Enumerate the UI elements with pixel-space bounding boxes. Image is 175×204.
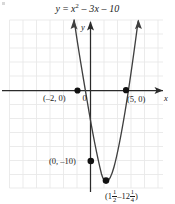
label-origin: 0 (83, 93, 87, 103)
point-vertex (103, 177, 110, 184)
graph-figure: y = x2 – 3x – 10 (0, 0, 175, 204)
coordinate-plane (0, 0, 175, 204)
label-y-axis-name: y (81, 22, 85, 32)
point-x-intercept-right (123, 87, 129, 93)
vertex-open: (1 (105, 191, 112, 201)
label-x-axis-name: x (164, 93, 168, 103)
label-x-intercept-left: (–2, 0) (43, 93, 66, 103)
grid-lines (10, 20, 164, 188)
label-x-intercept-right: (5, 0) (127, 94, 145, 104)
vertex-middle: –12 (117, 191, 130, 201)
vertex-close: ) (135, 191, 138, 201)
label-y-intercept: (0, –10) (49, 156, 76, 166)
label-vertex: (112–1214) (105, 189, 138, 203)
point-x-intercept-left (74, 87, 80, 93)
point-y-intercept (88, 158, 95, 165)
